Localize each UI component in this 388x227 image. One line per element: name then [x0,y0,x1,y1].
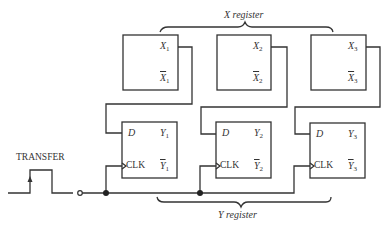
clk2-wire [200,166,216,193]
y1-d-label: D [128,128,135,138]
x3-qbar-label: X3 [348,73,358,85]
y2-d-label: D [222,128,229,138]
y-register-brace [157,197,331,207]
transfer-label: TRANSFER [16,153,65,163]
y3-qbar-label: Y3 [348,161,357,173]
y3-clk-label: CLK [314,161,333,171]
y2-q-label: Y2 [254,128,263,140]
input-terminal [78,191,83,196]
x1-q-label: X1 [160,41,170,53]
y1-qbar-label: Y1 [160,161,169,173]
y-register-label: Y register [218,210,257,220]
clock-bus [82,166,310,193]
y3-d-label: D [316,129,323,139]
y2-clk-label: CLK [220,161,239,171]
transfer-pulse [8,170,73,193]
x-register-brace [160,22,333,32]
rising-edge-arrow-icon [28,176,33,182]
x-register-label: X register [224,10,263,20]
clk1-wire [106,166,122,193]
x3-q-label: X3 [348,41,358,53]
x2-qbar-label: X2 [253,73,263,85]
junction-dot [103,190,109,196]
y1-clk-label: CLK [126,161,145,171]
x2-q-label: X2 [253,41,263,53]
x1-qbar-label: X1 [160,73,170,85]
circuit-diagram [0,0,388,227]
y1-q-label: Y1 [160,128,169,140]
y3-q-label: Y3 [348,129,357,141]
junction-dot [197,190,203,196]
y2-qbar-label: Y2 [254,161,263,173]
